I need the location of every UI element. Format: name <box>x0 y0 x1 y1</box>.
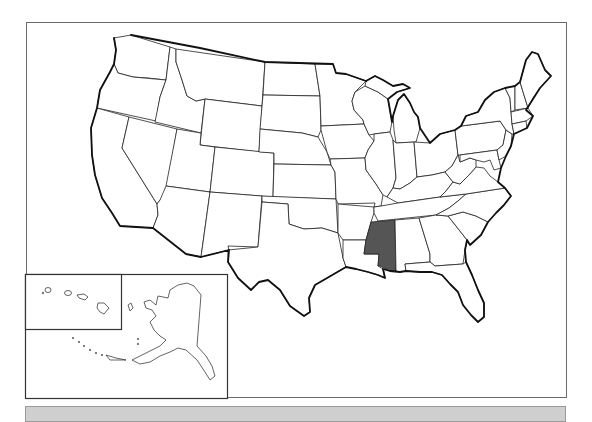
answer-bar[interactable] <box>25 406 566 422</box>
hawaii-inset-box <box>26 275 122 330</box>
state-arizona[interactable] <box>153 186 210 257</box>
state-montana[interactable] <box>176 49 265 106</box>
state-washington[interactable] <box>114 35 170 80</box>
state-north-dakota[interactable] <box>263 62 320 96</box>
inset-region <box>26 275 228 399</box>
state-colorado[interactable] <box>210 147 274 197</box>
state-kansas[interactable] <box>273 164 336 199</box>
state-wyoming[interactable] <box>200 99 262 152</box>
